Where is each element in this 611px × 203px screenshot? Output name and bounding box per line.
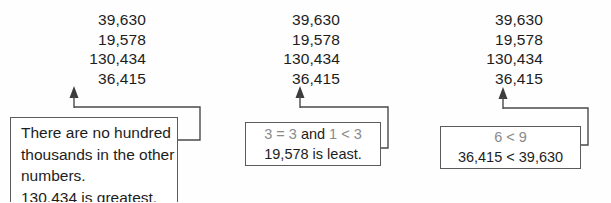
number-item: 130,434 [0, 49, 146, 69]
number-item: 130,434 [405, 49, 543, 69]
number-item: 19,578 [0, 30, 146, 50]
number-item: 36,415 [0, 69, 146, 89]
number-list-2: 39,630 19,578 130,434 36,415 [205, 10, 340, 88]
number-item: 36,415 [405, 69, 543, 89]
callout-conjunction: and [301, 126, 325, 142]
callout-post: 1 < 3 [325, 126, 362, 142]
comparison-panel-3: 39,630 19,578 130,434 36,415 6 < 9 36,41… [405, 0, 611, 202]
callout-line-comparison: 6 < 9 [447, 128, 574, 148]
arrow-head-icon [499, 87, 508, 99]
number-list-1: 39,630 19,578 130,434 36,415 [0, 10, 146, 88]
number-list-3: 39,630 19,578 130,434 36,415 [405, 10, 543, 88]
figure-canvas: 39,630 19,578 130,434 36,415 There are n… [0, 0, 611, 202]
number-item: 39,630 [405, 10, 543, 30]
callout-line-comparison: 3 = 3 and 1 < 3 [252, 125, 374, 145]
number-item: 19,578 [205, 30, 340, 50]
callout-box-1: There are no hundred thousands in the ot… [10, 117, 178, 202]
number-item: 130,434 [205, 49, 340, 69]
number-item: 36,415 [205, 69, 340, 89]
number-item: 39,630 [0, 10, 146, 30]
callout-line: 19,578 is least. [252, 145, 374, 165]
callout-line: numbers. [21, 165, 167, 187]
callout-pre: 3 = 3 [264, 126, 301, 142]
callout-line: thousands in the other [21, 144, 167, 166]
number-item: 39,630 [205, 10, 340, 30]
number-item: 19,578 [405, 30, 543, 50]
callout-box-2: 3 = 3 and 1 < 3 19,578 is least. [245, 122, 381, 166]
callout-line: 36,415 < 39,630 [447, 148, 574, 168]
comparison-panel-1: 39,630 19,578 130,434 36,415 There are n… [0, 0, 205, 202]
callout-box-3: 6 < 9 36,415 < 39,630 [440, 126, 581, 169]
callout-line: There are no hundred [21, 122, 167, 144]
callout-line: 130,434 is greatest. [21, 187, 167, 203]
comparison-panel-2: 39,630 19,578 130,434 36,415 3 = 3 and 1… [205, 0, 405, 202]
